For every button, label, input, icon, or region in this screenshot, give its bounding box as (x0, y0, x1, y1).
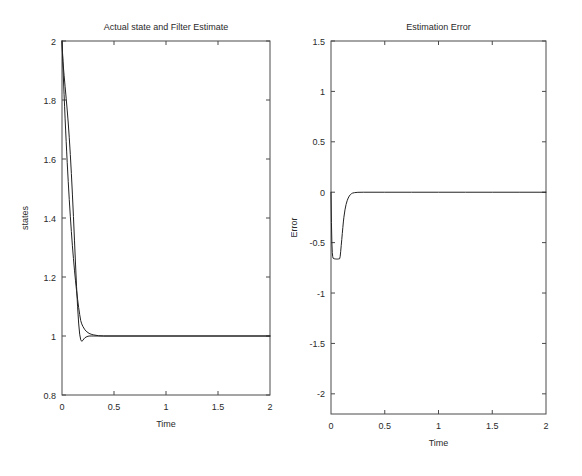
x-tick-label: 0.5 (108, 402, 121, 412)
y-tick-label: 1 (320, 87, 325, 97)
x-tick-label: 0.5 (378, 421, 391, 431)
chart-panel-actual-state: Actual state and Filter Estimate00.511.5… (0, 0, 291, 476)
y-tick-label: -1 (317, 289, 325, 299)
y-tick-label: 1.5 (312, 37, 325, 47)
x-tick-label: 0 (328, 421, 333, 431)
plot-frame (331, 41, 546, 414)
chart-title: Estimation Error (406, 22, 471, 32)
y-tick-label: -1.5 (309, 339, 325, 349)
series-line-2 (62, 41, 270, 341)
x-axis-label: Time (156, 419, 176, 429)
y-tick-label: -2 (317, 389, 325, 399)
series-line-1 (62, 41, 270, 336)
y-tick-label: 2 (51, 37, 56, 47)
y-tick-label: 1.4 (43, 214, 56, 224)
chart-svg-actual-state: Actual state and Filter Estimate00.511.5… (0, 0, 291, 476)
x-tick-label: 1 (436, 421, 441, 431)
x-tick-label: 1.5 (212, 402, 225, 412)
chart-panel-estimation-error: Estimation Error00.511.52-2-1.5-1-0.500.… (291, 0, 582, 476)
y-tick-label: 0.5 (312, 137, 325, 147)
x-axis-label: Time (429, 438, 449, 448)
chart-title: Actual state and Filter Estimate (104, 22, 229, 32)
y-tick-label: 1.8 (43, 96, 56, 106)
chart-svg-estimation-error: Estimation Error00.511.52-2-1.5-1-0.500.… (291, 0, 582, 476)
y-tick-label: 1 (51, 332, 56, 342)
x-tick-label: 2 (267, 402, 272, 412)
x-tick-label: 2 (543, 421, 548, 431)
plot-frame (62, 41, 270, 395)
y-axis-label: states (20, 205, 30, 230)
y-tick-label: 0 (320, 188, 325, 198)
x-tick-label: 1.5 (486, 421, 499, 431)
y-axis-label: Error (291, 217, 299, 237)
y-tick-label: 0.8 (43, 391, 56, 401)
y-tick-label: -0.5 (309, 238, 325, 248)
y-tick-label: 1.6 (43, 155, 56, 165)
y-tick-label: 1.2 (43, 273, 56, 283)
series-line-1 (331, 192, 546, 259)
x-tick-label: 0 (59, 402, 64, 412)
figure-canvas: Actual state and Filter Estimate00.511.5… (0, 0, 582, 476)
x-tick-label: 1 (163, 402, 168, 412)
